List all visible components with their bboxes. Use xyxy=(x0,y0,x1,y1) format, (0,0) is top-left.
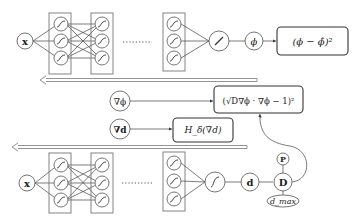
backprop-arrow-bottom xyxy=(12,143,247,151)
grad-d-node: ∇d xyxy=(110,119,130,139)
D-node: D xyxy=(274,173,292,191)
top-linear-node xyxy=(209,31,229,51)
phi-label: ϕ xyxy=(251,36,258,47)
top-layer1-neurons xyxy=(54,17,68,65)
eikonal-loss-box: (√D∇ϕ · ∇ϕ − 1)² xyxy=(214,86,303,113)
middle-section: ∇ϕ (√D∇ϕ · ∇ϕ − 1)² ∇d H_δ(∇d) xyxy=(110,86,303,142)
grad-phi-node: ∇ϕ xyxy=(110,91,130,111)
bottom-input-node: x xyxy=(19,175,35,191)
bottom-layer1-neurons xyxy=(54,158,68,207)
data-loss-formula: (ϕ − ϕ̂)² xyxy=(292,36,332,47)
bottom-layern-neurons xyxy=(167,156,181,206)
backprop-arrow-top xyxy=(40,76,257,84)
top-input-node: x xyxy=(17,33,33,49)
data-loss-box: (ϕ − ϕ̂)² xyxy=(277,27,348,55)
top-input-label: x xyxy=(22,36,29,47)
distance-label: d xyxy=(247,177,254,188)
top-phi-node: ϕ xyxy=(245,32,263,50)
grad-d-label: ∇d xyxy=(113,125,127,135)
dmax-node: d_max xyxy=(267,195,299,207)
heaviside-box: H_δ(∇d) xyxy=(173,118,233,142)
P-node: P xyxy=(277,153,289,165)
bottom-layer2-neurons xyxy=(95,158,109,207)
distance-node: d xyxy=(241,173,259,191)
P-label: P xyxy=(280,154,286,164)
top-network: x xyxy=(17,13,348,74)
bottom-input-label: x xyxy=(24,178,31,189)
top-layer2-neurons xyxy=(95,17,109,65)
dmax-label: d_max xyxy=(270,197,296,206)
eikonal-formula: (√D∇ϕ · ∇ϕ − 1)² xyxy=(223,96,295,106)
bottom-activation-node xyxy=(205,172,225,192)
diagram-canvas: x xyxy=(0,0,363,224)
D-label: D xyxy=(279,177,288,188)
grad-phi-label: ∇ϕ xyxy=(114,97,126,107)
top-layern-neurons xyxy=(167,17,181,65)
heaviside-formula: H_δ(∇d) xyxy=(184,125,222,136)
